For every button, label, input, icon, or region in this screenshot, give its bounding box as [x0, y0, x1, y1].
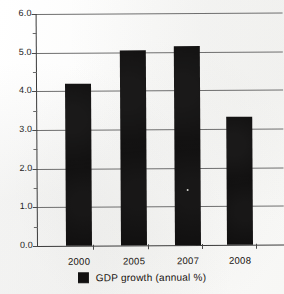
x-tick-1 — [93, 245, 94, 250]
x-tick-2 — [148, 244, 149, 249]
legend-swatch-gdp-growth — [78, 272, 89, 283]
y-tick-5 — [32, 53, 37, 54]
y-axis-label-2: 2.0 — [6, 163, 32, 173]
plot-area: 6.0 5.0 4.0 3.0 2.0 1.0 0.0 2000 2005 20… — [36, 12, 284, 246]
y-tick-1 — [33, 207, 38, 208]
y-axis-label-4: 4.0 — [6, 85, 32, 95]
y-axis-label-1: 1.0 — [7, 201, 33, 211]
legend-label-gdp-growth: GDP growth (annual %) — [96, 272, 207, 284]
x-axis-label-2005: 2005 — [111, 255, 157, 266]
x-tick-3 — [202, 244, 203, 249]
bar-2007 — [174, 46, 201, 245]
y-axis-label-6: 6.0 — [6, 8, 32, 18]
y-tick-minor-1-5 — [34, 188, 38, 189]
y-tick-2 — [33, 169, 38, 170]
y-tick-4 — [32, 91, 37, 92]
y-tick-6 — [32, 14, 37, 15]
gridline-6 — [36, 12, 283, 15]
y-tick-3 — [32, 130, 37, 131]
y-tick-minor-4-5 — [33, 72, 37, 73]
y-tick-minor-3-5 — [33, 111, 37, 112]
y-tick-0 — [33, 246, 38, 247]
y-tick-minor-0-5 — [34, 227, 38, 228]
y-tick-minor-5-5 — [33, 33, 37, 34]
bar-2008 — [226, 117, 253, 245]
chart-figure: 6.0 5.0 4.0 3.0 2.0 1.0 0.0 2000 2005 20… — [0, 0, 284, 294]
gridline-5 — [36, 51, 283, 54]
scan-speck — [187, 189, 189, 191]
x-axis-label-2008: 2008 — [217, 255, 263, 266]
y-axis-label-5: 5.0 — [6, 47, 32, 57]
y-tick-minor-2-5 — [33, 149, 37, 150]
x-tick-4 — [256, 244, 257, 249]
bar-2005 — [120, 50, 147, 245]
y-axis-label-3: 3.0 — [6, 124, 32, 134]
x-axis-label-2007: 2007 — [165, 255, 211, 266]
chart-legend: GDP growth (annual %) — [0, 271, 284, 283]
x-axis-label-2000: 2000 — [56, 256, 102, 267]
y-axis-label-0: 0.0 — [7, 240, 33, 250]
bar-2000 — [65, 83, 92, 246]
